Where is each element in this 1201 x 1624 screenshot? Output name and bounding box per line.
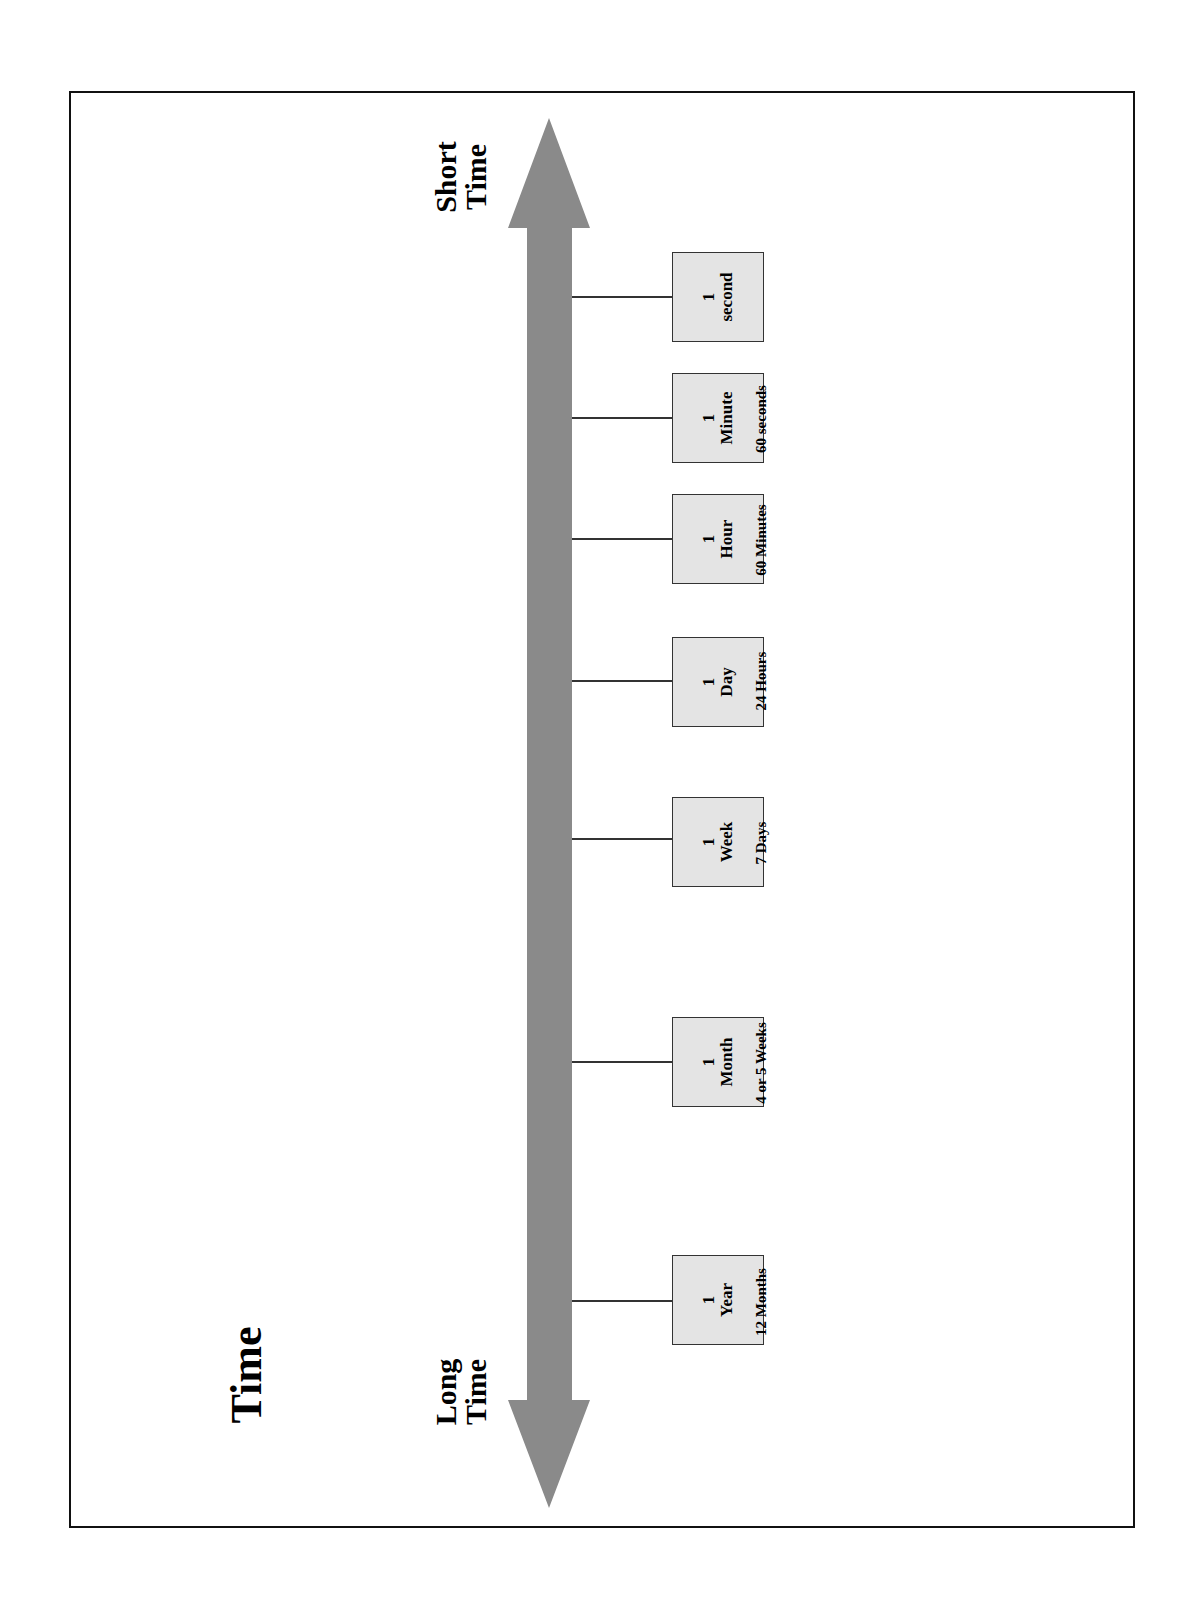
unit-name: Week (718, 797, 736, 887)
connector-line (572, 1061, 672, 1063)
long-label-line1: Long (431, 1337, 461, 1447)
unit-qty: 1 (700, 252, 718, 342)
unit-box-minute: 1 Minute (672, 373, 764, 463)
unit-box-text: 1 Year (700, 1255, 736, 1345)
equivalent-label: 7 Days (753, 793, 771, 893)
equivalent-label: 12 Months (753, 1252, 771, 1352)
unit-box-day: 1 Day (672, 637, 764, 727)
connector-line (572, 538, 672, 540)
unit-qty: 1 (700, 494, 718, 584)
unit-box-month: 1 Month (672, 1017, 764, 1107)
unit-box-year: 1 Year (672, 1255, 764, 1345)
connector-line (572, 838, 672, 840)
unit-name: Month (718, 1017, 736, 1107)
unit-box-hour: 1 Hour (672, 494, 764, 584)
connector-line (572, 296, 672, 298)
unit-box-text: 1 second (700, 252, 736, 342)
unit-qty: 1 (700, 1255, 718, 1345)
equivalent-label: 4 or 5 Weeks (753, 1003, 771, 1123)
equivalent-text: 4 or 5 Weeks (753, 1022, 769, 1104)
equivalent-text: 7 Days (753, 822, 769, 865)
connector-line (572, 417, 672, 419)
connector-line (572, 1300, 672, 1302)
short-time-label: Short Time (431, 122, 495, 232)
equivalent-text: 12 Months (753, 1268, 769, 1336)
connector-line (572, 680, 672, 682)
short-label-line1: Short (431, 122, 461, 232)
unit-box-week: 1 Week (672, 797, 764, 887)
unit-name: Day (718, 637, 736, 727)
long-label-line2: Time (461, 1337, 491, 1447)
unit-box-text: 1 Minute (700, 373, 736, 463)
unit-name: second (718, 252, 736, 342)
unit-box-text: 1 Week (700, 797, 736, 887)
unit-name: Year (718, 1255, 736, 1345)
unit-qty: 1 (700, 797, 718, 887)
unit-qty: 1 (700, 373, 718, 463)
unit-box-text: 1 Hour (700, 494, 736, 584)
unit-name: Minute (718, 373, 736, 463)
unit-name: Hour (718, 494, 736, 584)
equivalent-text: 60 seconds (753, 385, 769, 453)
double-arrow-icon (0, 0, 1201, 1624)
unit-qty: 1 (700, 637, 718, 727)
unit-box-text: 1 Day (700, 637, 736, 727)
unit-box-text: 1 Month (700, 1017, 736, 1107)
equivalent-text: 60 Minutes (753, 504, 769, 575)
equivalent-text: 24 Hours (753, 652, 769, 711)
long-time-label: Long Time (431, 1337, 495, 1447)
unit-qty: 1 (700, 1017, 718, 1107)
short-label-line2: Time (461, 122, 491, 232)
title-text: Time (222, 1327, 271, 1424)
equivalent-label: 24 Hours (753, 631, 771, 731)
equivalent-label: 60 seconds (753, 369, 771, 469)
equivalent-label: 60 Minutes (753, 490, 771, 590)
diagram-title: Time (225, 1310, 275, 1440)
unit-box-second: 1 second (672, 252, 764, 342)
